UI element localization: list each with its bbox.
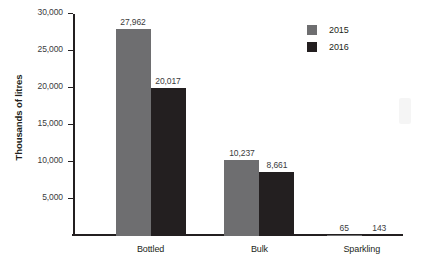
bar-value-label: 20,017: [155, 76, 180, 86]
y-tick: 5,000: [68, 198, 73, 199]
y-tick-label: 10,000: [38, 155, 63, 165]
legend-item-2015[interactable]: 2015: [307, 21, 349, 38]
category-label-bottled: Bottled: [137, 244, 164, 254]
bar-2015-bulk[interactable]: 10,237: [224, 160, 259, 236]
y-axis-line: [73, 14, 75, 236]
y-tick-label: 15,000: [38, 118, 63, 128]
bar-value-label: 65: [340, 223, 349, 233]
bar-2015-bottled[interactable]: 27,962: [116, 29, 151, 236]
legend-label-2016: 2016: [329, 42, 349, 52]
bar-2016-bottled[interactable]: 20,017: [151, 88, 186, 236]
bar-value-label: 143: [372, 223, 386, 233]
legend: 2015 2016: [307, 21, 349, 55]
y-tick: 15,000: [68, 124, 73, 125]
y-tick-label: 20,000: [38, 81, 63, 91]
legend-label-2015: 2015: [329, 25, 349, 35]
y-tick-label: 30,000: [38, 7, 63, 17]
y-tick: 10,000: [68, 161, 73, 162]
y-tick: 30,000: [68, 13, 73, 14]
bar-group: 10,2378,661Bulk: [224, 14, 294, 236]
bar-value-label: 8,661: [267, 160, 288, 170]
bar-2015-sparkling[interactable]: 65: [327, 235, 362, 236]
category-label-bulk: Bulk: [251, 244, 268, 254]
legend-swatch-2015: [307, 25, 317, 35]
legend-swatch-2016: [307, 42, 317, 52]
bar-value-label: 10,237: [229, 148, 254, 158]
scan-artifact: [399, 98, 411, 124]
plot-area: 5,00010,00015,00020,00025,00030,000 27,9…: [73, 14, 403, 236]
bar-group: 27,96220,017Bottled: [116, 14, 186, 236]
bar-chart: Thousands of litres 5,00010,00015,00020,…: [0, 0, 423, 276]
y-tick-label: 5,000: [42, 192, 63, 202]
y-tick: 20,000: [68, 87, 73, 88]
bar-value-label: 27,962: [120, 17, 145, 27]
bar-2016-sparkling[interactable]: 143: [362, 235, 397, 236]
y-tick-label: 25,000: [38, 44, 63, 54]
legend-item-2016[interactable]: 2016: [307, 38, 349, 55]
category-label-sparkling: Sparkling: [343, 244, 380, 254]
y-tick: 25,000: [68, 50, 73, 51]
bar-2016-bulk[interactable]: 8,661: [259, 172, 294, 236]
y-axis-title: Thousands of litres: [13, 48, 24, 188]
